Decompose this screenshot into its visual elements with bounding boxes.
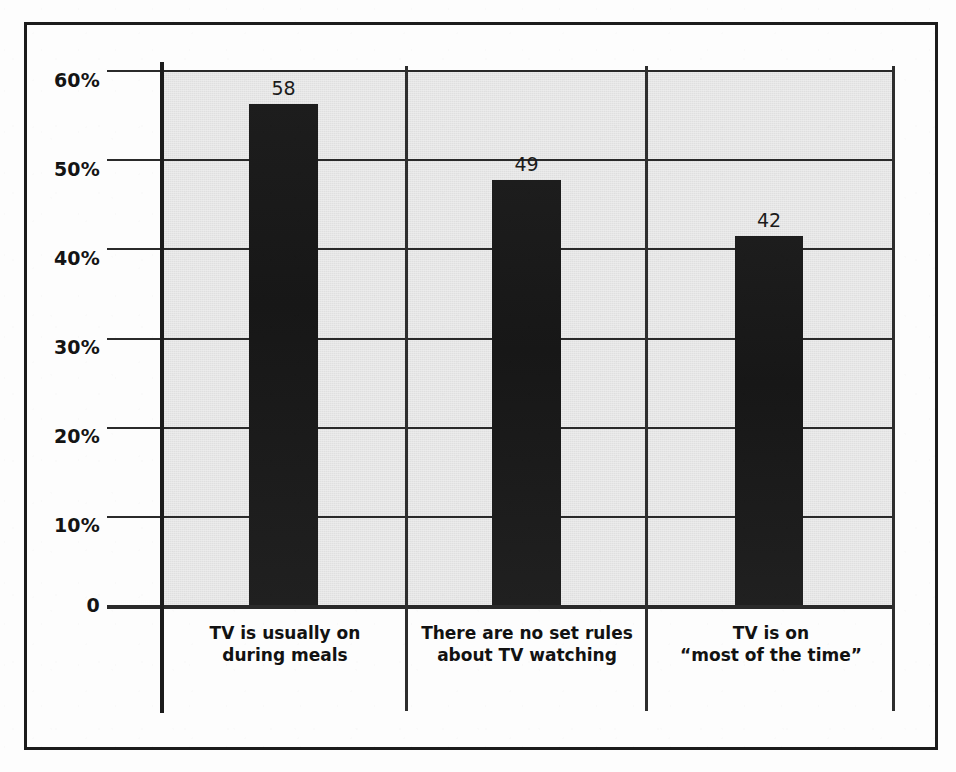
y-axis-labels: 60% 50% 40% 30% 20% 10% 0 [0, 0, 100, 772]
bar-value-label-3: 42 [735, 211, 803, 230]
chart-page: 60% 50% 40% 30% 20% 10% 0 58 49 42 TV is… [0, 0, 956, 772]
y-tick-label-40: 40% [8, 249, 100, 268]
category-label-3: TV is on “most of the time” [660, 622, 882, 667]
y-tick-50 [107, 159, 163, 161]
category-label-1: TV is usually on during meals [185, 622, 385, 667]
y-tick-60 [107, 70, 163, 72]
plot-right-edge [892, 66, 895, 711]
bar-value-label-2: 49 [492, 155, 561, 174]
y-tick-label-20: 20% [8, 427, 100, 446]
category-divider-1 [405, 66, 408, 711]
gridline-60 [163, 70, 892, 72]
y-tick-40 [107, 248, 163, 250]
y-tick-30 [107, 338, 163, 340]
y-tick-label-10: 10% [8, 516, 100, 535]
y-tick-label-60: 60% [8, 71, 100, 90]
y-tick-label-0: 0 [8, 596, 100, 615]
y-tick-label-50: 50% [8, 160, 100, 179]
category-label-2: There are no set rules about TV watching [417, 622, 637, 667]
bar-value-label-1: 58 [249, 79, 318, 98]
bar-tv-on-most-of-the-time [735, 236, 803, 605]
y-tick-10 [107, 516, 163, 518]
gridline-0 [107, 605, 894, 609]
y-axis-line [160, 62, 164, 713]
y-tick-label-30: 30% [8, 338, 100, 357]
y-tick-20 [107, 427, 163, 429]
category-divider-2 [645, 66, 648, 711]
bar-no-set-rules [492, 180, 561, 605]
bar-tv-usually-on-during-meals [249, 104, 318, 605]
